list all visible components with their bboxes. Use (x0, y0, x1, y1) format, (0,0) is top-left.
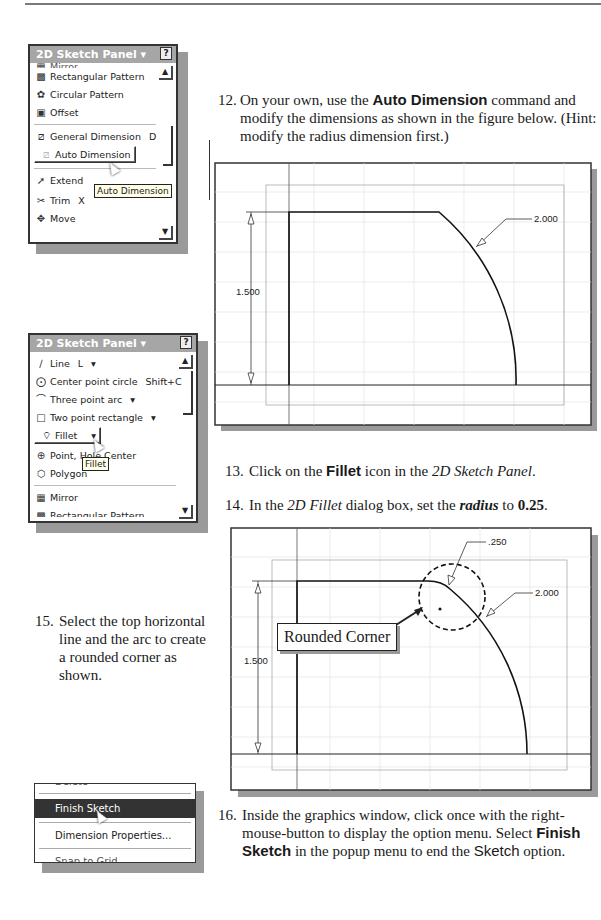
panel-item-rectangular-pattern[interactable]: ▩Rectangular Pattern (34, 507, 144, 517)
item-label: Mirror (50, 61, 78, 68)
help-icon[interactable]: ? (180, 336, 192, 349)
context-menu-screenshot: Delete Finish Sketch Dimension Propertie… (34, 783, 204, 873)
sketch-panel-1-screenshot: 2D Sketch Panel ▾ ? ▲ ▼ ▦Mirror ▩Rectang… (28, 44, 188, 254)
height-dimension[interactable]: 1.500 (244, 655, 268, 666)
scroll-up-button[interactable]: ▲ (159, 66, 173, 80)
panel-item-rectangular-pattern[interactable]: ▩Rectangular Pattern (34, 68, 144, 86)
radius-dimension[interactable]: 2.000 (535, 587, 559, 598)
step-text: icon in the (361, 463, 432, 479)
panel-item-line[interactable]: ∕LineL▾ (34, 355, 96, 373)
mirror-icon: ▦ (34, 489, 48, 507)
item-label: Move (50, 213, 75, 224)
parameter-value: 0.25 (518, 497, 544, 513)
step-12: 12. On your own, use the Auto Dimension … (218, 91, 601, 145)
step-text: . (544, 497, 548, 513)
step-number: 15. (35, 612, 54, 630)
step-text: dialog box, set the (342, 497, 459, 513)
item-label: Rectangular Pattern (50, 71, 144, 82)
panel-item-polygon[interactable]: ⬡Polygon (34, 465, 87, 483)
separator (39, 822, 191, 823)
scroll-down-button[interactable]: ▼ (159, 226, 173, 240)
panel-title[interactable]: 2D Sketch Panel ▾ ? (30, 335, 196, 352)
step-number: 16. (218, 806, 237, 824)
tooltip: Fillet (82, 457, 109, 471)
two-point-rectangle-icon: □ (34, 409, 48, 427)
step-15: 15. Select the top horizontal line and t… (35, 612, 215, 684)
sketch-panel-2-screenshot: 2D Sketch Panel ▾ ? ▲ ▼ ∕LineL▾ ⨀Center … (28, 333, 208, 533)
fillet-radius-dimension[interactable]: .250 (488, 536, 507, 547)
panel-item-circular-pattern[interactable]: ✿Circular Pattern (34, 86, 124, 104)
shortcut-key: X (78, 195, 85, 206)
panel-item-trim[interactable]: ✂TrimX (34, 192, 85, 210)
menu-item-finish-sketch[interactable]: Finish Sketch (35, 799, 195, 818)
step-14: 14. In the 2D Fillet dialog box, set the… (225, 496, 601, 514)
step-text: Select the top horizontal line and the a… (35, 612, 215, 684)
mode-name: Sketch (474, 842, 520, 859)
menu-item-snap-to-grid[interactable]: Snap to Grid (35, 852, 195, 863)
mirror-icon: ▦ (34, 58, 48, 68)
separator (34, 124, 156, 125)
sketch-figure-1: 1.500 2.000 (214, 162, 601, 434)
panel-item-extend[interactable]: ➚Extend (34, 172, 83, 190)
step-number: 14. (225, 496, 244, 514)
rectangular-pattern-icon: ▩ (34, 68, 48, 86)
context-menu: Delete Finish Sketch Dimension Propertie… (34, 783, 196, 863)
circular-pattern-icon: ✿ (34, 86, 48, 104)
dropdown-arrow-icon[interactable]: ▾ (91, 358, 96, 369)
step-text: option. (520, 843, 566, 859)
rounded-corner-callout: Rounded Corner (277, 623, 397, 651)
item-label: Rectangular Pattern (50, 510, 144, 517)
separator (39, 793, 191, 794)
panel-item-mirror[interactable]: ▦Mirror (34, 58, 78, 68)
panel-item-two-point-rectangle[interactable]: □Two point rectangle▾ (34, 409, 156, 427)
sketch-figure-2: Rounded Corner 1.500 .250 2.000 (230, 527, 601, 799)
separator (39, 848, 191, 849)
panel-item-three-point-arc[interactable]: ⌒Three point arc▾ (34, 391, 135, 409)
panel-item-move[interactable]: ✥Move (34, 210, 75, 228)
step-text: . (532, 463, 536, 479)
margin-rule (209, 140, 210, 200)
step-16: 16. Inside the graphics window, click on… (218, 806, 601, 860)
auto-dimension-icon: ⧄ (39, 147, 53, 162)
scrollbar-thumb[interactable] (163, 126, 173, 166)
panel-item-mirror[interactable]: ▦Mirror (34, 489, 78, 507)
step-text: Click on the (249, 463, 326, 479)
three-point-arc-icon: ⌒ (34, 391, 48, 409)
polygon-icon: ⬡ (34, 465, 48, 483)
rectangular-pattern-icon: ▩ (34, 507, 48, 517)
item-label: Three point arc (50, 394, 122, 405)
item-label: Center point circle (50, 376, 138, 387)
panel-item-auto-dimension[interactable]: ⧄Auto Dimension (34, 146, 136, 163)
item-label: Extend (50, 175, 83, 186)
help-icon[interactable]: ? (160, 47, 172, 60)
panel-item-general-dimension[interactable]: ⧄General DimensionD (34, 128, 156, 146)
shortcut-key: Shift+C (146, 376, 182, 387)
item-label: Line (50, 358, 70, 369)
item-label: Offset (50, 107, 79, 118)
scrollbar-thumb[interactable] (183, 371, 193, 415)
scroll-down-button[interactable]: ▼ (179, 505, 193, 519)
tooltip: Auto Dimension (94, 184, 172, 198)
radius-dimension[interactable]: 2.000 (534, 213, 558, 224)
scroll-up-button[interactable]: ▲ (179, 355, 193, 369)
dialog-name: 2D Fillet (287, 497, 342, 513)
item-label: Fillet (55, 430, 77, 441)
command-name: Fillet (326, 462, 361, 479)
panel-title-label: 2D Sketch Panel ▾ (36, 337, 146, 350)
panel-name: 2D Sketch Panel (432, 463, 532, 479)
step-text: In the (249, 497, 287, 513)
dropdown-arrow-icon[interactable]: ▾ (151, 412, 156, 423)
dropdown-arrow-icon[interactable]: ▾ (130, 394, 135, 405)
shortcut-key: L (78, 358, 83, 369)
height-dimension[interactable]: 1.500 (236, 286, 260, 297)
item-label: General Dimension (50, 131, 141, 142)
menu-item-delete[interactable]: Delete (35, 783, 195, 791)
item-label: Trim (50, 195, 70, 206)
panel-item-offset[interactable]: ▣Offset (34, 104, 79, 122)
panel-item-center-point-circle[interactable]: ⨀Center point circleShift+C (34, 373, 182, 391)
move-icon: ✥ (34, 210, 48, 228)
separator (34, 485, 176, 486)
step-13: 13. Click on the Fillet icon in the 2D S… (225, 462, 601, 480)
menu-item-dimension-properties[interactable]: Dimension Properties... (35, 826, 195, 845)
point-center-icon: ⊕ (34, 447, 48, 465)
